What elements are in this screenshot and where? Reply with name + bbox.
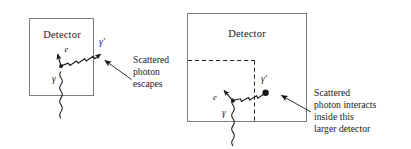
left-electron-arrow <box>58 54 61 66</box>
left-callout-leader <box>105 61 132 80</box>
photon-interaction-point <box>262 90 268 96</box>
right-electron-label: e <box>213 92 217 102</box>
left-incoming-photon-wave <box>60 71 63 118</box>
right-detector-label: Detector <box>212 28 282 40</box>
left-electron-label: e <box>65 44 69 54</box>
left-annotation-line-2: photon <box>133 66 160 77</box>
right-annotation-line-3: inside this <box>314 111 354 122</box>
left-detector-label: Detector <box>37 29 87 41</box>
left-annotation-line-3: escapes <box>133 78 163 89</box>
right-scattered-photon-label: γ′ <box>261 74 267 85</box>
right-annotation-line-1: Scattered <box>314 87 350 98</box>
right-scattered-photon-track <box>234 90 269 102</box>
right-annotation-line-4: larger detector <box>314 123 370 134</box>
left-annotation-line-1: Scattered <box>133 54 169 65</box>
right-incoming-photon-label: γ <box>222 108 226 119</box>
right-annotation-line-2: photon interacts <box>314 99 376 110</box>
compton-scattering-detector-figure: Detector e γ γ′ Scattered photon escapes… <box>0 0 411 149</box>
left-scattered-photon-label: γ′ <box>99 37 105 48</box>
right-electron-arrow <box>224 90 233 100</box>
left-incoming-photon-label: γ <box>52 74 56 85</box>
right-incoming-photon-wave <box>232 98 235 146</box>
left-scattered-photon-track <box>62 54 101 65</box>
